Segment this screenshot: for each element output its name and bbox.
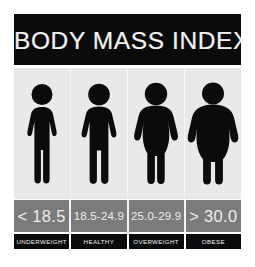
bmi-category-row: UNDERWEIGHT HEALTHY OVERWEIGHT OBESE: [14, 234, 241, 249]
person-obese-icon: [183, 81, 243, 186]
person-healthy-icon: [76, 82, 122, 186]
figures-panel: [14, 68, 241, 199]
page-title: BODY MASS INDEX: [14, 14, 241, 65]
bmi-category-healthy: HEALTHY: [71, 234, 128, 249]
person-slim-icon: [22, 82, 62, 186]
title-bar: BODY MASS INDEX: [14, 14, 241, 65]
figure-cell-overweight: [128, 68, 185, 199]
bmi-range-obese: > 30.0: [186, 200, 241, 232]
person-overweight-icon: [129, 81, 183, 186]
figure-cell-obese: [185, 68, 241, 199]
bmi-category-overweight: OVERWEIGHT: [129, 234, 186, 249]
bmi-infographic: BODY MASS INDEX: [0, 0, 255, 267]
bmi-category-underweight: UNDERWEIGHT: [14, 234, 71, 249]
figure-cell-healthy: [71, 68, 128, 199]
figure-cell-underweight: [14, 68, 71, 199]
bmi-range-underweight: < 18.5: [14, 200, 71, 232]
bmi-range-row: < 18.5 18.5-24.9 25.0-29.9 > 30.0: [14, 200, 241, 232]
bmi-range-healthy: 18.5-24.9: [71, 200, 128, 232]
bmi-category-obese: OBESE: [186, 234, 241, 249]
bmi-range-overweight: 25.0-29.9: [129, 200, 186, 232]
